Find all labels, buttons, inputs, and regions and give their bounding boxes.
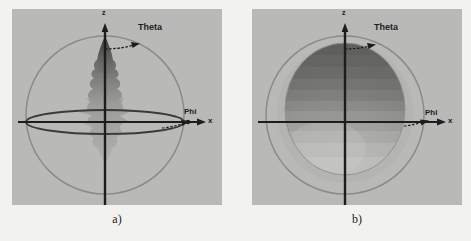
x-axis-arrowhead <box>437 119 446 126</box>
panel-b-caption: b) <box>337 212 377 227</box>
panel-b: z Theta Phi x <box>252 9 462 205</box>
theta-angle-indicator <box>105 37 140 49</box>
panel-b-graphic <box>252 9 462 205</box>
x-axis-arrowhead <box>197 119 206 126</box>
z-axis-arrowhead <box>102 23 109 32</box>
figure-container: z Theta Phi x <box>0 0 471 241</box>
z-axis-arrowhead <box>342 23 349 32</box>
panel-a-x-label: x <box>208 117 212 125</box>
sphere-highlight <box>286 121 366 177</box>
panel-b-z-label: z <box>342 9 346 16</box>
panel-a-phi-label: Phi <box>184 108 196 116</box>
panel-b-x-label: x <box>448 117 452 125</box>
panel-b-theta-label: Theta <box>374 23 398 32</box>
panel-a-caption: a) <box>97 212 137 227</box>
panel-b-phi-label: Phi <box>425 109 437 117</box>
panel-a: z Theta Phi x <box>12 9 222 205</box>
panel-a-theta-label: Theta <box>138 23 162 32</box>
panel-a-z-label: z <box>102 9 106 16</box>
